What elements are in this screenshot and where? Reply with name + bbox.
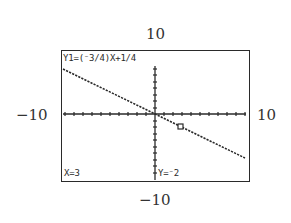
trace-y-value: Y=⁻2 <box>158 169 179 178</box>
trace-x-value: X=3 <box>64 169 80 178</box>
trace-cursor <box>178 124 183 129</box>
graph-plot <box>0 0 291 223</box>
equation-text: Y1=(⁻3/4)X+1/4 <box>63 54 136 63</box>
